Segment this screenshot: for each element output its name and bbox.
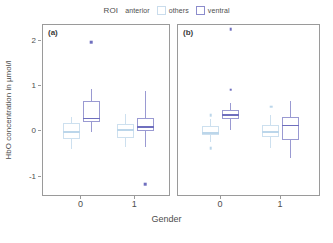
y-axis-tick-label: 2 xyxy=(14,35,36,44)
facet-panel-b: (b) xyxy=(177,24,320,196)
x-axis-tick-label: 0 xyxy=(217,199,222,209)
y-axis-tick-mark xyxy=(38,130,41,131)
facet-panel-a: (a) xyxy=(42,24,170,196)
y-axis-tick-mark xyxy=(38,40,41,41)
x-axis-tick-mark xyxy=(80,196,81,199)
y-axis-label: HbO concentration in µmol/l xyxy=(4,61,13,160)
outlier-point xyxy=(144,183,147,186)
median-line xyxy=(137,126,154,128)
boxplot-ventral-gender-1 xyxy=(43,25,169,195)
legend-item-ventral[interactable]: ventral xyxy=(196,6,230,15)
y-axis-tick-label: 1 xyxy=(14,81,36,90)
box-iqr xyxy=(282,117,299,140)
plot-area-a xyxy=(43,25,169,195)
legend-title: ROI xyxy=(103,6,118,15)
y-axis-tick-mark xyxy=(38,85,41,86)
boxplot-ventral-gender-1 xyxy=(178,25,319,195)
legend-label-anterior: anterior xyxy=(125,7,150,14)
median-line xyxy=(282,125,299,127)
x-axis-tick-label: 1 xyxy=(132,199,137,209)
x-axis-tick-mark xyxy=(280,196,281,199)
x-axis-label: Gender xyxy=(0,214,333,224)
legend-key-ventral-icon xyxy=(196,6,205,15)
x-axis-tick-mark xyxy=(220,196,221,199)
chart-root: ROI anterior others ventral HbO concentr… xyxy=(0,0,333,243)
x-axis-tick-mark xyxy=(134,196,135,199)
legend: ROI anterior others ventral xyxy=(0,2,333,18)
legend-label-ventral: ventral xyxy=(208,7,230,14)
y-axis-tick-mark xyxy=(38,176,41,177)
plot-area-b xyxy=(178,25,319,195)
x-axis-tick-label: 1 xyxy=(277,199,282,209)
box-iqr xyxy=(137,118,154,132)
legend-label-others: others xyxy=(169,7,189,14)
x-axis-tick-label: 0 xyxy=(78,199,83,209)
legend-key-others-icon xyxy=(157,6,166,15)
y-axis-tick-label: 0 xyxy=(14,126,36,135)
y-axis-tick-label: -1 xyxy=(14,171,36,180)
legend-item-others[interactable]: others xyxy=(157,6,189,15)
